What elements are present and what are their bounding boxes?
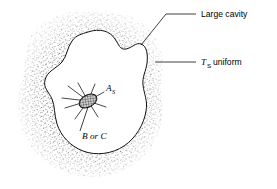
b-or-c-label: B or C	[82, 131, 107, 141]
thermal-cavity-figure: Large cavity T S uniform A S B or C	[0, 0, 277, 189]
ts-subscript: S	[207, 62, 211, 69]
as-symbol: A	[105, 83, 112, 93]
figure-canvas: Large cavity T S uniform A S B or C	[0, 0, 277, 189]
large-cavity-label: Large cavity	[201, 9, 248, 19]
ts-uniform-word: uniform	[213, 57, 242, 67]
